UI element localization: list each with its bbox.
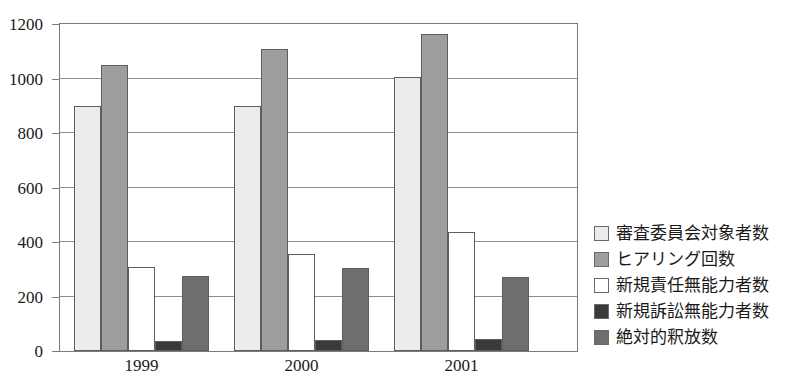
y-tick-mark-0 xyxy=(52,351,59,352)
y-tick-label-200: 200 xyxy=(18,289,53,306)
bar-2000-series-2 xyxy=(288,254,315,351)
x-tick-label-2001: 2001 xyxy=(445,356,479,376)
legend-item-1: ヒアリング回数 xyxy=(594,246,808,272)
bar-1999-series-3 xyxy=(155,341,182,351)
bar-2000-series-4 xyxy=(342,268,369,351)
plot-area xyxy=(59,23,578,352)
legend-label-3: 新規訴訟無能力者数 xyxy=(616,302,769,321)
y-tick-label-800: 800 xyxy=(18,125,53,142)
bar-group-1999 xyxy=(74,24,209,351)
bar-1999-series-0 xyxy=(74,106,101,351)
legend-item-3: 新規訴訟無能力者数 xyxy=(594,298,808,324)
y-tick-mark-1200 xyxy=(52,24,59,25)
legend-swatch-icon-0 xyxy=(594,226,609,241)
bar-chart: 020040060080010001200 199920002001 審査委員会… xyxy=(0,0,809,387)
x-tick-label-1999: 1999 xyxy=(125,356,159,376)
legend-swatch-icon-4 xyxy=(594,330,609,345)
bar-2001-series-1 xyxy=(421,34,448,351)
bar-1999-series-4 xyxy=(182,276,209,351)
bar-2000-series-0 xyxy=(234,106,261,351)
bar-group-2000 xyxy=(234,24,369,351)
y-tick-label-1200: 1200 xyxy=(9,16,52,33)
bar-2001-series-2 xyxy=(448,232,475,351)
chart-title xyxy=(150,0,510,3)
y-tick-mark-1000 xyxy=(52,79,59,80)
y-tick-label-1000: 1000 xyxy=(9,71,52,88)
legend-label-1: ヒアリング回数 xyxy=(616,250,735,269)
y-tick-mark-600 xyxy=(52,188,59,189)
legend-label-4: 絶対的釈放数 xyxy=(616,328,718,347)
y-tick-label-600: 600 xyxy=(18,180,53,197)
y-tick-mark-400 xyxy=(52,242,59,243)
bar-group-2001 xyxy=(394,24,529,351)
x-axis: 199920002001 xyxy=(60,356,577,382)
y-tick-mark-200 xyxy=(52,297,59,298)
legend-item-0: 審査委員会対象者数 xyxy=(594,220,808,246)
legend-item-2: 新規責任無能力者数 xyxy=(594,272,808,298)
legend-swatch-icon-3 xyxy=(594,304,609,319)
bar-2000-series-1 xyxy=(261,49,288,351)
bar-1999-series-1 xyxy=(101,65,128,351)
y-tick-label-0: 0 xyxy=(35,343,53,360)
bar-2001-series-3 xyxy=(475,339,502,351)
bar-2000-series-3 xyxy=(315,340,342,351)
y-tick-label-400: 400 xyxy=(18,234,53,251)
bars-layer xyxy=(60,24,577,351)
legend-label-2: 新規責任無能力者数 xyxy=(616,276,769,295)
chart-legend: 審査委員会対象者数ヒアリング回数新規責任無能力者数新規訴訟無能力者数絶対的釈放数 xyxy=(594,220,808,350)
legend-swatch-icon-2 xyxy=(594,278,609,293)
bar-2001-series-4 xyxy=(502,277,529,351)
legend-label-0: 審査委員会対象者数 xyxy=(616,224,769,243)
y-tick-mark-800 xyxy=(52,133,59,134)
x-tick-label-2000: 2000 xyxy=(285,356,319,376)
legend-item-4: 絶対的釈放数 xyxy=(594,324,808,350)
y-axis: 020040060080010001200 xyxy=(0,23,52,352)
legend-swatch-icon-1 xyxy=(594,252,609,267)
bar-2001-series-0 xyxy=(394,77,421,351)
bar-1999-series-2 xyxy=(128,267,155,351)
